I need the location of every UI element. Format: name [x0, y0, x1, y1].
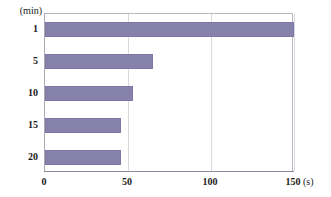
- y-tick-label-5: 5: [0, 55, 38, 66]
- gridline-150: [294, 14, 295, 171]
- bar-5: [45, 54, 153, 69]
- bar-1: [45, 22, 294, 37]
- plot-area: [44, 13, 293, 172]
- y-tick-label-15: 15: [0, 119, 38, 130]
- y-tick-label-1: 1: [0, 23, 38, 34]
- bar-10: [45, 86, 133, 101]
- y-tick-label-10: 10: [0, 87, 38, 98]
- bar-chart: (min) 15101520 050100150 (s): [0, 0, 331, 197]
- y-tick-label-20: 20: [0, 151, 38, 162]
- x-axis-line: [44, 171, 294, 172]
- bars-layer: [45, 14, 292, 171]
- bar-15: [45, 118, 121, 133]
- x-axis-unit-label: (s): [303, 176, 314, 187]
- x-tick-label-50: 50: [107, 176, 147, 187]
- x-tick-label-0: 0: [24, 176, 64, 187]
- bar-20: [45, 150, 121, 165]
- y-axis-unit-label: (min): [4, 5, 42, 16]
- x-tick-label-100: 100: [190, 176, 230, 187]
